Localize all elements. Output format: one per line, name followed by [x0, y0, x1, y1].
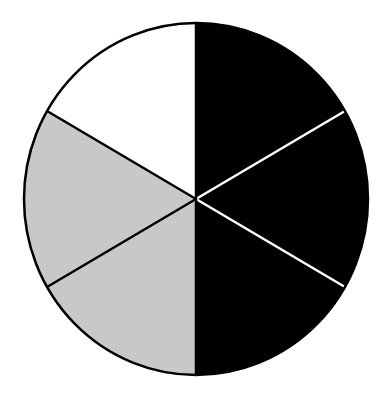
pie-chart	[0, 0, 387, 400]
